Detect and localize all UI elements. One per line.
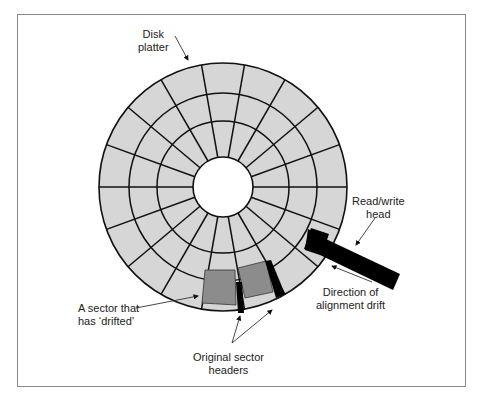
label-drifted-sector: A sector that has ‘drifted’ [78,302,139,328]
spindle-hole [193,157,253,217]
disk-diagram [0,0,481,401]
label-line: Direction of [316,286,385,299]
label-line: platter [138,41,169,54]
label-line: has ‘drifted’ [78,315,139,328]
drifted-sector-1 [202,270,236,305]
label-disk-platter: Disk platter [138,28,169,54]
label-original-headers: Original sector headers [193,351,264,377]
label-line: Disk [138,28,169,41]
label-line: headers [193,364,264,377]
label-line: Original sector [193,351,264,364]
label-line: Read/write [352,195,405,208]
label-line: alignment drift [316,299,385,312]
label-line: head [352,208,405,221]
label-line: A sector that [78,302,139,315]
label-read-write-head: Read/write head [352,195,405,221]
label-direction-drift: Direction of alignment drift [316,286,385,312]
